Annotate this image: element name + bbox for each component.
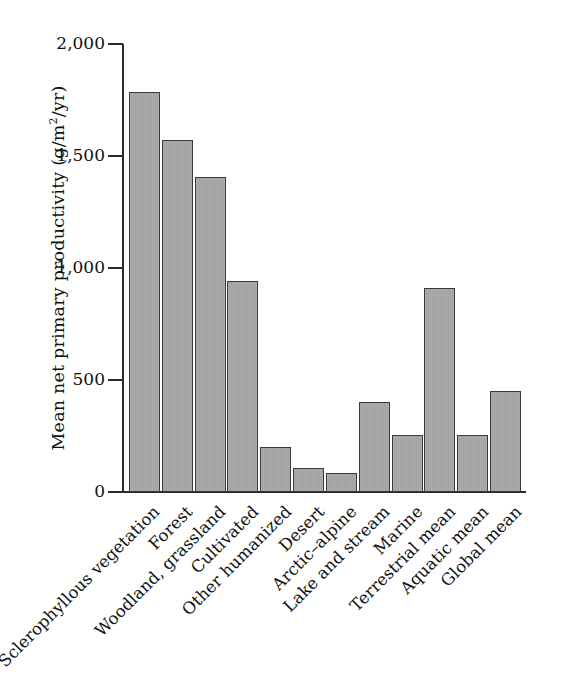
bar (392, 435, 423, 492)
y-axis-title-post: /yr) (48, 85, 68, 117)
y-axis-title-pre: Mean net primary productivity (g/m (48, 124, 68, 450)
bar (424, 288, 455, 492)
bar (260, 447, 291, 492)
chart-figure: Mean net primary productivity (g/m2/yr) … (0, 0, 567, 696)
y-tick-2000 (108, 43, 123, 45)
bar (162, 140, 193, 492)
bar (129, 92, 160, 492)
y-axis-title-superscript: 2 (47, 117, 60, 124)
bar (490, 391, 521, 492)
y-tick-label-1500: 1,500 (0, 145, 105, 165)
y-tick-1500 (108, 155, 123, 157)
bar (326, 473, 357, 492)
y-tick-0 (108, 491, 123, 493)
y-tick-500 (108, 379, 123, 381)
y-tick-label-1000: 1,000 (0, 257, 105, 277)
bar (227, 281, 258, 492)
bar (359, 402, 390, 492)
y-tick-label-500: 500 (0, 369, 105, 389)
x-axis-category-labels: Sclerophyllous vegetationForestWoodland,… (0, 0, 567, 696)
y-tick-1000 (108, 267, 123, 269)
bar (457, 435, 488, 492)
bar (293, 468, 324, 492)
bar (195, 177, 226, 492)
y-tick-label-2000: 2,000 (0, 33, 105, 53)
y-tick-label-0: 0 (0, 481, 105, 501)
